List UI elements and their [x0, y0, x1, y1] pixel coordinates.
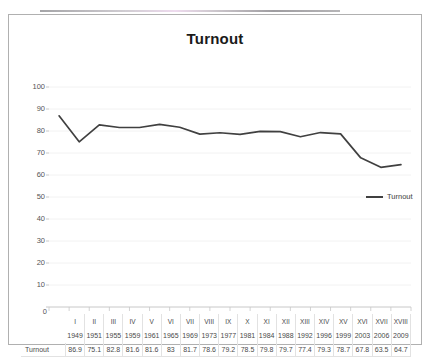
table-cell-roman: V [142, 315, 161, 329]
table-cell-roman: XVIII [391, 315, 410, 329]
table-row-roman: IIIIIIIVVVIVIIVIIIIXXXIXIIXIIIXIVXVXVIXV… [22, 315, 411, 329]
table-cell-year: 1996 [315, 329, 334, 343]
table-cell-value: 79.7 [276, 343, 295, 357]
y-axis-tick-60: 60 [19, 171, 45, 179]
table-cell-roman: XVI [353, 315, 372, 329]
table-cell-roman: IV [123, 315, 142, 329]
table-cell-roman: VIII [200, 315, 219, 329]
y-axis-tick-70: 70 [19, 149, 45, 157]
table-row-values: Turnout86.975.182.881.681.68381.778.679.… [22, 343, 411, 357]
table-cell-value: 78.7 [334, 343, 353, 357]
y-axis-tick-40: 40 [19, 215, 45, 223]
y-axis-tick-80: 80 [19, 127, 45, 135]
y-axis-tick-30: 30 [19, 237, 45, 245]
table-cell-year: 1949 [66, 329, 85, 343]
table-cell-value: 86.9 [66, 343, 85, 357]
table-cell-value: 63.5 [372, 343, 391, 357]
table-cell-roman: XIII [295, 315, 314, 329]
chart-legend: Turnout [366, 192, 413, 201]
y-axis-tick-20: 20 [19, 259, 45, 267]
y-axis-tick-10: 10 [19, 281, 45, 289]
table-cell-roman: X [238, 315, 257, 329]
table-corner-years [22, 329, 66, 343]
table-cell-value: 81.6 [142, 343, 161, 357]
series-line-turnout [59, 116, 401, 167]
table-cell-value: 64.7 [391, 343, 410, 357]
table-cell-roman: XII [276, 315, 295, 329]
table-cell-roman: XVII [372, 315, 391, 329]
table-cell-value: 81.7 [180, 343, 199, 357]
table-cell-roman: II [85, 315, 104, 329]
table-cell-value: 79.8 [257, 343, 276, 357]
table-cell-value: 75.1 [85, 343, 104, 357]
table-row-label: Turnout [22, 343, 66, 357]
table-cell-value: 77.4 [295, 343, 314, 357]
gridlines [46, 87, 411, 307]
table-cell-year: 2009 [391, 329, 410, 343]
table-cell-roman: IX [219, 315, 238, 329]
table-cell-year: 1977 [219, 329, 238, 343]
table-cell-year: 1969 [180, 329, 199, 343]
y-axis-tick-50: 50 [19, 193, 45, 201]
legend-label-turnout: Turnout [387, 192, 413, 201]
table-cell-value: 82.8 [104, 343, 123, 357]
table-cell-year: 1959 [123, 329, 142, 343]
table-cell-value: 81.6 [123, 343, 142, 357]
data-table: IIIIIIIVVVIVIIVIIIIXXXIXIIXIIIXIVXVXVIXV… [21, 314, 411, 357]
table-cell-value: 78.6 [200, 343, 219, 357]
y-axis-tick-90: 90 [19, 105, 45, 113]
plot-area: 100908070605040302010 [9, 15, 423, 346]
table-cell-value: 78.5 [238, 343, 257, 357]
table-cell-year: 1988 [276, 329, 295, 343]
table-row-years: 1949195119551959196119651969197319771981… [22, 329, 411, 343]
table-cell-year: 2003 [353, 329, 372, 343]
chart-container: Turnout 100908070605040302010 Turnout 0 … [8, 14, 422, 345]
table-cell-roman: XV [334, 315, 353, 329]
table-cell-year: 1992 [295, 329, 314, 343]
table-cell-year: 1984 [257, 329, 276, 343]
table-cell-value: 67.8 [353, 343, 372, 357]
table-cell-value: 79.3 [315, 343, 334, 357]
table-cell-value: 83 [161, 343, 180, 357]
table-cell-roman: VII [180, 315, 199, 329]
table-cell-roman: III [104, 315, 123, 329]
table-cell-year: 1961 [142, 329, 161, 343]
table-cell-year: 1965 [161, 329, 180, 343]
table-corner-roman [22, 315, 66, 329]
table-cell-roman: XI [257, 315, 276, 329]
scan-artifact [40, 10, 340, 12]
chart-plot-svg [9, 15, 423, 346]
legend-line-swatch [366, 196, 383, 198]
table-cell-year: 2006 [372, 329, 391, 343]
x-axis-tick-marks [49, 307, 411, 311]
table-cell-roman: I [66, 315, 85, 329]
table-cell-year: 1973 [200, 329, 219, 343]
data-series-group [59, 116, 401, 167]
table-cell-roman: VI [161, 315, 180, 329]
y-axis-tick-100: 100 [19, 83, 45, 91]
table-cell-value: 79.2 [219, 343, 238, 357]
table-cell-year: 1999 [334, 329, 353, 343]
table-cell-roman: XIV [315, 315, 334, 329]
table-cell-year: 1955 [104, 329, 123, 343]
table-cell-year: 1981 [238, 329, 257, 343]
table-cell-year: 1951 [85, 329, 104, 343]
